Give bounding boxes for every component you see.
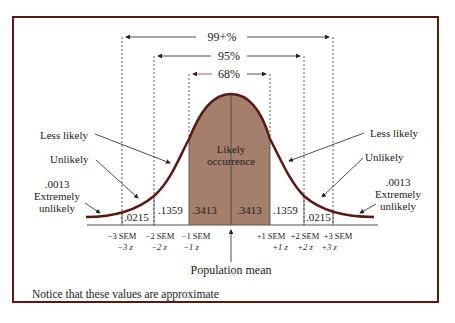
left-tail-line1: Extremely <box>27 190 87 202</box>
right-tail-line1: Extremely <box>368 188 428 200</box>
center-label-line2: occurrence <box>196 155 266 167</box>
right-unlikely: Unlikely <box>365 151 404 163</box>
axis-z-label: −3 z <box>110 242 140 252</box>
area-value: .0215 <box>124 211 149 223</box>
left-unlikely: Unlikely <box>50 153 89 165</box>
right-tail-value: .0013 <box>368 176 428 188</box>
range-99-label: 99+% <box>200 31 244 43</box>
area-value: .3413 <box>237 204 262 216</box>
center-label-line1: Likely <box>201 143 261 155</box>
area-value: .1359 <box>273 204 298 216</box>
footnote: Notice that these values are approximate <box>32 288 219 300</box>
axis-z-label: +3 z <box>314 242 344 252</box>
axis-sem-label: −1 SEM <box>174 231 218 241</box>
right-less-likely: Less likely <box>370 127 418 139</box>
area-value: .0215 <box>306 211 331 223</box>
left-tail-line2: unlikely <box>27 202 87 214</box>
axis-z-label: −1 z <box>176 242 206 252</box>
population-mean-label: Population mean <box>181 264 281 276</box>
right-tail-line2: unlikely <box>368 200 428 212</box>
area-value: .3413 <box>192 204 217 216</box>
left-less-likely: Less likely <box>40 129 88 141</box>
range-68-label: 68% <box>214 68 244 80</box>
range-95-label: 95% <box>214 50 244 62</box>
axis-sem-label: +3 SEM <box>316 231 360 241</box>
axis-z-label: −2 z <box>144 242 174 252</box>
area-value: .1359 <box>158 204 183 216</box>
left-tail-value: .0013 <box>27 178 87 190</box>
